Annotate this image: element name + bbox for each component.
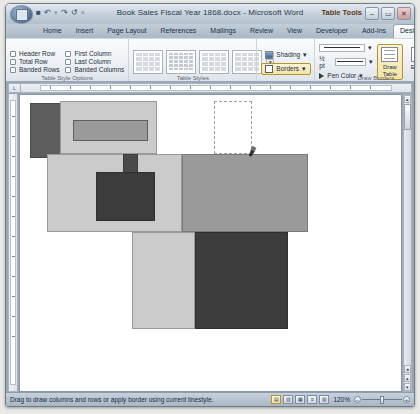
borders-button[interactable]: Borders ▾ <box>261 63 311 75</box>
shading-button[interactable]: Shading ▾ <box>261 49 311 61</box>
previous-page-button[interactable]: ▴ <box>404 374 411 382</box>
tab-home[interactable]: Home <box>36 24 69 38</box>
ribbon: Header Row First Column Total Row Last C… <box>6 38 414 81</box>
contextual-tools-label: Table Tools <box>321 8 362 17</box>
chevron-down-icon[interactable]: ▾ <box>302 65 306 73</box>
shading-icon <box>265 51 273 59</box>
tab-selector-button[interactable]: L <box>9 84 21 92</box>
shape-dark-bottom[interactable] <box>195 232 288 329</box>
chevron-down-icon[interactable]: ▾ <box>303 51 307 59</box>
checkbox-box <box>65 67 71 73</box>
pencil-cursor <box>248 145 258 157</box>
status-message: Drag to draw columns and rows or apply b… <box>10 396 267 403</box>
tab-mailings[interactable]: Mailings <box>203 24 243 38</box>
checkbox-banded-columns[interactable]: Banded Columns <box>65 66 124 73</box>
checkbox-label: Header Row <box>19 50 55 57</box>
tab-add-ins[interactable]: Add-Ins <box>355 24 393 38</box>
select-browse-object-button[interactable]: ● <box>404 365 411 373</box>
document-area: L <box>6 81 414 406</box>
shape-light-bottom[interactable] <box>132 232 195 329</box>
checkbox-label: Banded Rows <box>19 66 59 73</box>
group-shading-borders: Shading ▾ Borders ▾ <box>256 39 314 82</box>
zoom-thumb[interactable] <box>380 396 384 404</box>
shading-label: Shading <box>276 51 300 58</box>
tab-view[interactable]: View <box>280 24 309 38</box>
checkbox-first-column[interactable]: First Column <box>65 50 124 57</box>
checkbox-box <box>10 51 16 57</box>
ribbon-tabs: Home Insert Page Layout References Maili… <box>6 24 414 38</box>
checkbox-label: Last Column <box>74 58 111 65</box>
vertical-ruler[interactable] <box>8 94 18 392</box>
pen-weight-label: ½ pt <box>319 55 331 69</box>
borders-icon <box>265 65 273 73</box>
checkbox-header-row[interactable]: Header Row <box>10 50 59 57</box>
view-print-layout[interactable]: ▤ <box>271 395 281 404</box>
tab-references[interactable]: References <box>154 24 204 38</box>
line-style-selector[interactable] <box>319 44 365 52</box>
status-bar: Drag to draw columns and rows or apply b… <box>6 392 414 406</box>
window-controls: – ▭ ✕ <box>365 7 411 20</box>
close-button[interactable]: ✕ <box>397 7 411 20</box>
shape-medium-main-right[interactable] <box>182 154 308 232</box>
draw-table-label-line1: Draw <box>383 64 397 71</box>
eraser-label: Eraser <box>411 64 415 71</box>
group-draw-borders: ▾ ½ pt ▾ Pen Color ▾ Draw <box>314 39 415 82</box>
line-preview-icon <box>324 47 360 48</box>
restore-button[interactable]: ▭ <box>381 7 395 20</box>
checkbox-banded-rows[interactable]: Banded Rows <box>10 66 59 73</box>
checkbox-label: Banded Columns <box>74 66 124 73</box>
chevron-down-icon[interactable]: ▾ <box>369 58 373 66</box>
tab-developer[interactable]: Developer <box>309 24 355 38</box>
tab-review[interactable]: Review <box>243 24 280 38</box>
draw-table-icon <box>381 47 398 62</box>
checkbox-last-column[interactable]: Last Column <box>65 58 124 65</box>
checkbox-box <box>10 59 16 65</box>
horizontal-ruler[interactable]: L <box>8 83 412 93</box>
tab-page-layout[interactable]: Page Layout <box>100 24 153 38</box>
pen-weight-row: ½ pt ▾ <box>319 55 373 69</box>
zoom-level[interactable]: 120% <box>333 396 350 403</box>
document-page[interactable] <box>19 94 402 392</box>
checkbox-total-row[interactable]: Total Row <box>10 58 59 65</box>
checkbox-box <box>65 59 71 65</box>
vertical-scroll-thumb[interactable] <box>404 104 411 130</box>
shape-dark-left-tab[interactable] <box>30 103 61 158</box>
zoom-in-button[interactable]: + <box>403 396 410 403</box>
table-style-thumbnail[interactable] <box>199 50 229 74</box>
view-draft[interactable]: ▥ <box>319 395 329 404</box>
shape-dark-square[interactable] <box>96 172 155 221</box>
minimize-button[interactable]: – <box>365 7 379 20</box>
horizontal-ruler-track <box>22 85 410 91</box>
vertical-scrollbar[interactable]: ▴ ● ▴ ▾ <box>403 94 412 392</box>
table-style-thumbnail[interactable] <box>166 50 196 74</box>
checkbox-box <box>10 67 16 73</box>
vruler-page-extent <box>10 100 16 385</box>
shape-medium-inner-bar[interactable] <box>73 120 148 141</box>
view-web-layout[interactable]: ▦ <box>295 395 305 404</box>
eraser-icon <box>411 47 415 62</box>
view-outline[interactable]: ≡ <box>307 395 317 404</box>
view-full-screen-reading[interactable]: ▧ <box>283 395 293 404</box>
view-buttons: ▤ ▧ ▦ ≡ ▥ <box>271 395 329 404</box>
zoom-slider[interactable]: − + <box>354 395 410 404</box>
word-window: ■ ↶ ▾ ↷ ↺ ▾ Book Sales Fiscal Year 1868.… <box>5 3 415 407</box>
ruler-page-extent <box>40 85 392 91</box>
table-style-thumbnail[interactable] <box>133 50 163 74</box>
group-table-style-options: Header Row First Column Total Row Last C… <box>6 39 128 82</box>
dashed-draw-preview <box>214 101 252 154</box>
scroll-up-button[interactable]: ▴ <box>404 95 411 103</box>
zoom-out-button[interactable]: − <box>354 396 361 403</box>
line-style-row: ▾ <box>319 44 373 52</box>
group-table-styles: ▴ ▾ ▾ Table Styles <box>128 39 256 82</box>
pen-weight-selector[interactable] <box>335 58 366 66</box>
title-bar: ■ ↶ ▾ ↷ ↺ ▾ Book Sales Fiscal Year 1868.… <box>6 4 414 24</box>
table-styles-gallery: ▴ ▾ ▾ <box>133 50 274 74</box>
chevron-down-icon[interactable]: ▾ <box>368 44 372 52</box>
tab-insert[interactable]: Insert <box>69 24 101 38</box>
checkbox-box <box>65 51 71 57</box>
checkbox-label: First Column <box>74 50 111 57</box>
borders-label: Borders <box>276 65 299 72</box>
next-page-button[interactable]: ▾ <box>404 383 411 391</box>
weight-preview-icon <box>337 61 363 62</box>
tab-design[interactable]: Design <box>393 24 415 38</box>
